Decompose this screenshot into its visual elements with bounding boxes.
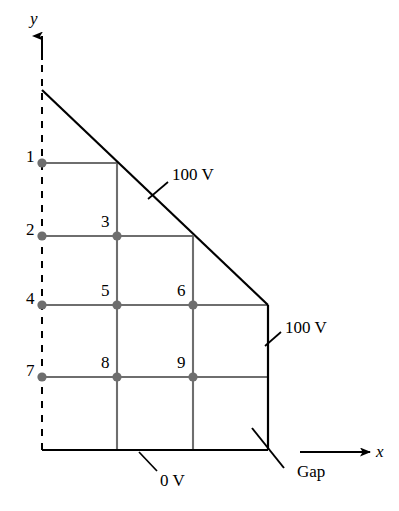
bottom-potential-label: 0 V xyxy=(160,472,185,489)
node-dot-3[interactable] xyxy=(112,231,121,240)
node-label-7: 7 xyxy=(26,362,35,379)
node-dot-1[interactable] xyxy=(37,158,46,167)
node-dot-7[interactable] xyxy=(37,372,46,381)
node-label-2: 2 xyxy=(26,221,35,238)
leader-diagonal-100v xyxy=(148,182,168,199)
node-label-8: 8 xyxy=(101,354,110,371)
node-dot-8[interactable] xyxy=(112,372,121,381)
diagonal-boundary xyxy=(42,90,268,305)
node-label-9: 9 xyxy=(177,354,186,371)
diagonal-potential-label: 100 V xyxy=(172,166,214,183)
boundaries xyxy=(42,36,284,468)
y-axis-label: y xyxy=(30,10,38,27)
annotation-leaders xyxy=(139,182,281,471)
node-dot-2[interactable] xyxy=(37,231,46,240)
node-label-5: 5 xyxy=(101,282,110,299)
x-axis-label: x xyxy=(376,443,384,460)
node-label-3: 3 xyxy=(101,213,110,230)
figure-canvas: y x 1 2 3 4 5 6 7 8 9 100 V 100 V 0 V Ga… xyxy=(0,0,399,511)
diagram-svg xyxy=(0,0,399,511)
gap-label: Gap xyxy=(297,463,325,480)
right-wall-potential-label: 100 V xyxy=(285,319,327,336)
node-dot-4[interactable] xyxy=(37,300,46,309)
node-dot-9[interactable] xyxy=(188,372,197,381)
node-dot-5[interactable] xyxy=(112,300,121,309)
node-dot-6[interactable] xyxy=(188,300,197,309)
node-label-1: 1 xyxy=(26,148,35,165)
node-label-6: 6 xyxy=(177,282,186,299)
leader-bottom-0v xyxy=(139,452,157,471)
node-label-4: 4 xyxy=(26,290,35,307)
mesh-grid xyxy=(42,163,268,450)
